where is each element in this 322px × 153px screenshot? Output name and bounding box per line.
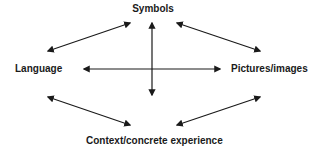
arrow-symbols-pictures	[177, 23, 260, 51]
diagram-arrows	[0, 0, 322, 153]
node-context-concrete-experience: Context/concrete experience	[86, 135, 222, 147]
arrow-language-symbols	[48, 23, 130, 51]
node-language: Language	[15, 63, 62, 75]
arrow-context-pictures	[177, 97, 260, 125]
arrow-language-context	[48, 97, 130, 125]
node-pictures-images: Pictures/images	[231, 63, 308, 75]
node-symbols: Symbols	[123, 3, 183, 15]
